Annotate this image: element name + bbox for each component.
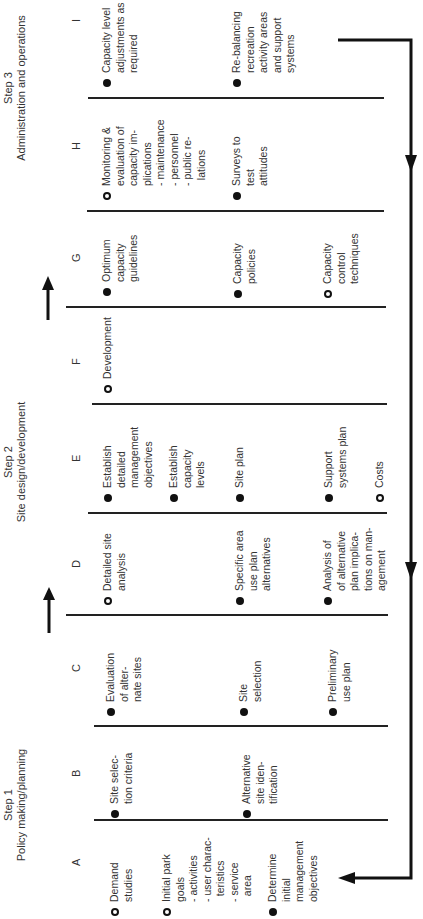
item-i-2: Re-balancing recreation activity areas a… (230, 11, 298, 87)
filled-bullet-icon (325, 494, 333, 502)
open-bullet-icon (104, 385, 112, 393)
item-text: Demand studies (108, 862, 135, 902)
open-bullet-icon (103, 192, 111, 200)
item-a-3: Determine initial management objectives (266, 841, 320, 916)
open-bullet-icon (111, 908, 119, 916)
item-text: Costs (373, 461, 387, 488)
item-text: Capacity control techniques (321, 233, 362, 284)
flow-arrows (0, 0, 423, 919)
item-h-2: Surveys to test attitudes (230, 136, 271, 200)
filled-bullet-icon (104, 494, 112, 502)
open-bullet-icon (104, 597, 112, 605)
item-e-2: Establish capacity levels (167, 445, 208, 502)
item-c-2: Site selection (237, 661, 264, 716)
item-g-1: Optimum capacity guidelines (100, 235, 141, 296)
item-i-1: Capacity level adjustments as required (100, 2, 141, 87)
item-e-5: Costs (373, 461, 387, 502)
filled-bullet-icon (240, 708, 248, 716)
item-f-1: Development (101, 317, 115, 393)
open-bullet-icon (324, 290, 332, 298)
filled-bullet-icon (103, 288, 111, 296)
filled-bullet-icon (170, 494, 178, 502)
item-b-1: Site selec- tion criteria (108, 753, 135, 818)
item-text: Specific area use plan alternatives (233, 530, 274, 591)
up-arrow-step2-to-step3 (42, 276, 54, 320)
filled-bullet-icon (269, 908, 277, 916)
item-text: Support systems plan (322, 427, 349, 488)
item-text: Preliminary use plan (326, 649, 353, 702)
item-d-2: Specific area use plan alternatives (233, 530, 274, 605)
item-e-3: Site plan (233, 447, 247, 502)
filled-bullet-icon (111, 810, 119, 818)
item-c-3: Preliminary use plan (326, 649, 353, 716)
item-d-3: Analysis of of alternative plan implica-… (321, 527, 389, 605)
open-bullet-icon (376, 494, 384, 502)
item-c-1: Evaluation of alter- nate sites (104, 653, 145, 716)
item-a-1: Demand studies (108, 862, 135, 916)
item-a-2: Initial park goals - activities - user c… (160, 837, 255, 916)
item-text: Site plan (233, 447, 247, 488)
item-e-1: Establish detailed management objectives (101, 427, 155, 502)
item-text: Analysis of of alternative plan implica-… (321, 527, 389, 591)
item-text: Determine initial management objectives (266, 841, 320, 902)
item-text: Establish detailed management objectives (101, 427, 155, 488)
filled-bullet-icon (233, 79, 241, 87)
item-text: Detailed site analysis (101, 533, 128, 591)
item-text: Alternative site iden- tification (240, 754, 281, 804)
item-text: Optimum capacity guidelines (100, 235, 141, 282)
filled-bullet-icon (236, 597, 244, 605)
item-text: Monitoring & evaluation of capacity im- … (100, 119, 208, 186)
item-text: Re-balancing recreation activity areas a… (230, 11, 298, 73)
up-arrow-step1-to-step2 (43, 587, 55, 633)
item-b-2: Alternative site iden- tification (240, 754, 281, 818)
item-d-1: Detailed site analysis (101, 533, 128, 605)
item-text: Evaluation of alter- nate sites (104, 653, 145, 702)
filled-bullet-icon (233, 192, 241, 200)
item-h-1: Monitoring & evaluation of capacity im- … (100, 119, 208, 200)
item-text: Initial park goals - activities - user c… (160, 837, 255, 902)
filled-bullet-icon (236, 494, 244, 502)
open-bullet-icon (163, 908, 171, 916)
filled-bullet-icon (103, 79, 111, 87)
item-text: Capacity level adjustments as required (100, 2, 141, 73)
filled-bullet-icon (107, 708, 115, 716)
item-g-2: Capacity policies (231, 243, 258, 298)
item-text: Surveys to test attitudes (230, 136, 271, 186)
item-e-4: Support systems plan (322, 427, 349, 502)
item-text: Site selec- tion criteria (108, 753, 135, 804)
filled-bullet-icon (329, 708, 337, 716)
item-text: Establish capacity levels (167, 445, 208, 488)
filled-bullet-icon (234, 290, 242, 298)
item-text: Capacity policies (231, 243, 258, 284)
item-text: Site selection (237, 661, 264, 702)
item-text: Development (101, 317, 115, 379)
filled-bullet-icon (243, 810, 251, 818)
item-g-3: Capacity control techniques (321, 233, 362, 298)
filled-bullet-icon (324, 597, 332, 605)
